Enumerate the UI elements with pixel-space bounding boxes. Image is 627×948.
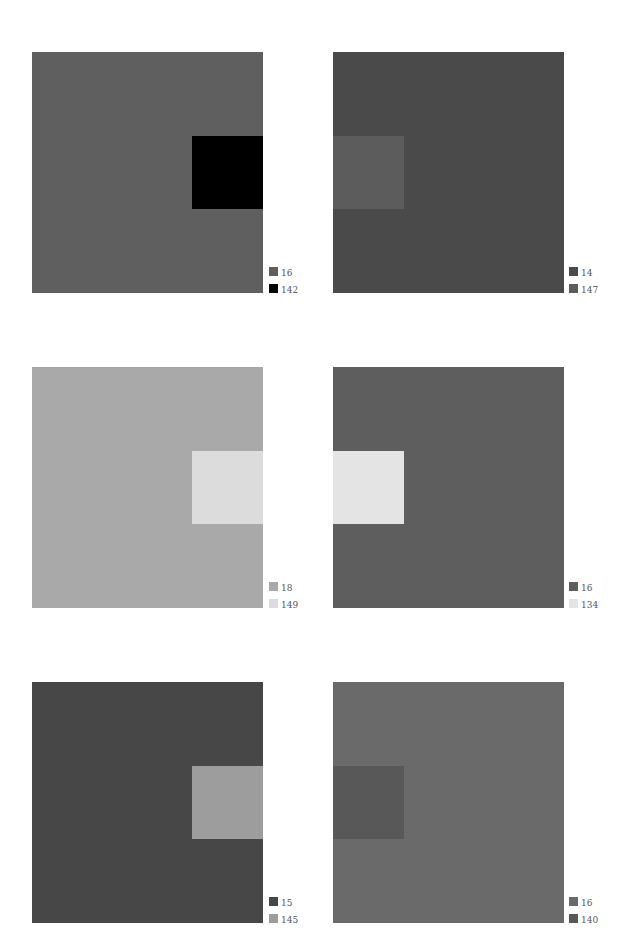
legend-item-bg: 14 [569,267,627,279]
inner-square-4 [333,451,404,524]
legend-item-inner: 149 [269,599,329,611]
legend-value-inner: 145 [281,914,298,926]
legend-item-inner: 142 [269,284,329,296]
panel-4 [333,367,564,608]
inner-square-6 [333,766,404,839]
swatch-bg [569,582,578,591]
legend-value-bg: 18 [281,582,292,594]
panel-6 [333,682,564,923]
swatch-bg [269,267,278,276]
legend-item-inner: 140 [569,914,627,926]
swatch-inner [569,599,578,608]
legend-value-bg: 16 [281,267,292,279]
legend-value-inner: 142 [281,284,298,296]
swatch-bg [569,267,578,276]
legend-item-inner: 145 [269,914,329,926]
legend-value-bg: 16 [581,582,592,594]
legend-item-bg: 16 [269,267,329,279]
inner-square-3 [192,451,263,524]
legend-item-bg: 16 [569,582,627,594]
legend-item-inner: 147 [569,284,627,296]
swatch-bg [269,582,278,591]
legend-item-bg: 15 [269,897,329,909]
swatch-inner [569,284,578,293]
inner-square-1 [192,136,263,209]
legend-value-inner: 147 [581,284,598,296]
legend-item-bg: 18 [269,582,329,594]
legend-value-inner: 140 [581,914,598,926]
swatch-inner [269,599,278,608]
swatch-inner [269,914,278,923]
inner-square-2 [333,136,404,209]
legend-value-inner: 149 [281,599,298,611]
swatch-bg [569,897,578,906]
legend-item-bg: 16 [569,897,627,909]
swatch-inner [269,284,278,293]
inner-square-5 [192,766,263,839]
legend-value-bg: 15 [281,897,292,909]
swatch-bg [269,897,278,906]
panel-5 [32,682,263,923]
swatch-inner [569,914,578,923]
panel-1 [32,52,263,293]
legend-value-bg: 14 [581,267,592,279]
panel-2 [333,52,564,293]
legend-value-inner: 134 [581,599,598,611]
legend-value-bg: 16 [581,897,592,909]
panel-3 [32,367,263,608]
legend-item-inner: 134 [569,599,627,611]
